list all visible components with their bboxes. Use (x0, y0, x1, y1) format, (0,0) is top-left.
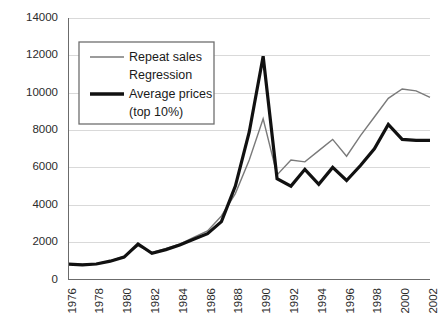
x-tick-label-1982: 1982 (149, 288, 161, 314)
y-tick-label-14000: 14000 (26, 11, 58, 23)
y-tick-label-6000: 6000 (32, 160, 58, 172)
x-tick-label-1988: 1988 (232, 288, 244, 314)
x-tick-label-1978: 1978 (93, 288, 105, 314)
x-tick-label-1996: 1996 (344, 288, 356, 314)
x-tick-label-1990: 1990 (260, 288, 272, 314)
y-tick-label-2000: 2000 (32, 235, 58, 247)
y-tick-label-10000: 10000 (26, 86, 58, 98)
chart-figure: 02000400060008000100001200014000 1976197… (0, 0, 442, 332)
legend-label-repeat-sales-line2: Regression (129, 68, 192, 82)
legend-label-average-prices-line1: Average prices (129, 87, 212, 101)
y-tick-label-12000: 12000 (26, 48, 58, 60)
chart-background (0, 0, 442, 332)
y-tick-label-4000: 4000 (32, 198, 58, 210)
line-chart: 02000400060008000100001200014000 1976197… (0, 0, 442, 332)
y-tick-label-0: 0 (52, 273, 58, 285)
x-tick-label-1998: 1998 (371, 288, 383, 314)
x-tick-label-2000: 2000 (399, 288, 411, 314)
x-tick-label-1992: 1992 (288, 288, 300, 314)
legend-label-average-prices-line2: (top 10%) (129, 105, 183, 119)
legend-label-repeat-sales-line1: Repeat sales (129, 50, 202, 64)
x-tick-label-1994: 1994 (316, 287, 328, 313)
x-tick-label-1986: 1986 (205, 288, 217, 314)
x-tick-label-1984: 1984 (177, 287, 189, 313)
x-tick-label-1980: 1980 (121, 288, 133, 314)
legend: Repeat sales Regression Average prices (… (79, 42, 214, 124)
x-tick-label-1976: 1976 (66, 288, 78, 314)
y-tick-label-8000: 8000 (32, 123, 58, 135)
x-tick-label-2002: 2002 (427, 288, 439, 314)
